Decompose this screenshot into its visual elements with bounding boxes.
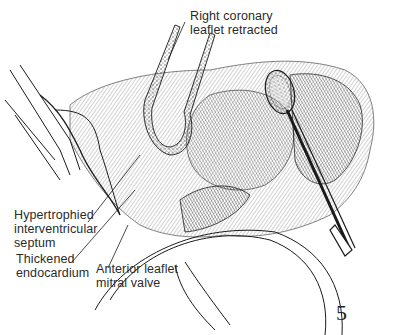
label-line: leaflet retracted — [190, 23, 278, 37]
label-line: Anterior leaflet — [96, 262, 178, 276]
heart-surgery-illustration — [0, 0, 405, 335]
label-line: interventricular — [14, 222, 98, 236]
label-line: septum — [14, 236, 98, 250]
label-anterior-mitral-leaflet: Anterior leaflet mitral valve — [96, 262, 178, 290]
label-right-coronary-leaflet: Right coronary leaflet retracted — [190, 9, 278, 37]
label-thickened-endocardium: Thickened endocardium — [16, 252, 89, 280]
label-hypertrophied-septum: Hypertrophied interventricular septum — [14, 208, 98, 250]
figure-number: 5 — [336, 300, 347, 326]
label-line: mitral valve — [96, 276, 178, 290]
label-line: Thickened — [16, 252, 89, 266]
heart-tissue — [70, 61, 374, 237]
label-line: endocardium — [16, 266, 89, 280]
label-line: Hypertrophied — [14, 208, 98, 222]
label-line: Right coronary — [190, 9, 278, 23]
